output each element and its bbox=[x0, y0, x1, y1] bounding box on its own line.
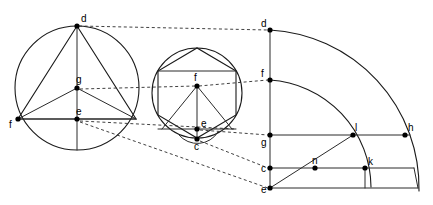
right-point-n bbox=[312, 165, 317, 170]
right-label-l: l bbox=[355, 122, 357, 133]
left-label-g: g bbox=[76, 74, 82, 85]
right-label-f: f bbox=[261, 68, 264, 79]
right-point-g bbox=[267, 132, 272, 137]
connector-middle-f-to-right-f bbox=[199, 80, 268, 86]
middle-spoke-f-left bbox=[162, 86, 197, 129]
middle-label-c: c bbox=[194, 141, 199, 152]
middle-label-f: f bbox=[194, 72, 197, 83]
left-circle-panel: d g e f bbox=[9, 13, 139, 150]
right-point-c bbox=[267, 165, 272, 170]
right-point-k bbox=[362, 165, 367, 170]
left-point-d bbox=[74, 23, 79, 28]
connector-d-to-d bbox=[79, 26, 268, 30]
right-label-g: g bbox=[261, 137, 267, 148]
connector-middle-c-to-right-c bbox=[200, 141, 268, 168]
right-point-e bbox=[267, 185, 272, 190]
right-label-n: n bbox=[312, 155, 318, 166]
inner-arc bbox=[270, 80, 371, 187]
geometric-construction-figure: d g e f f e c bbox=[0, 0, 433, 205]
connector-left-e-to-middle-chord bbox=[80, 121, 236, 129]
right-label-d: d bbox=[261, 18, 267, 29]
left-spoke-g-r bbox=[77, 88, 136, 119]
right-point-d bbox=[267, 27, 272, 32]
left-point-f bbox=[15, 116, 20, 121]
diagram-canvas: d g e f f e c bbox=[0, 0, 433, 205]
left-label-e: e bbox=[76, 106, 82, 117]
right-point-l bbox=[350, 132, 355, 137]
right-point-f bbox=[267, 77, 272, 82]
middle-point-f bbox=[194, 83, 199, 88]
right-quadrant-panel: d f g c e l h k n bbox=[261, 18, 419, 195]
left-point-e bbox=[74, 116, 79, 121]
right-closing-edge bbox=[414, 168, 418, 188]
left-label-d: d bbox=[81, 13, 87, 24]
right-label-h: h bbox=[408, 122, 414, 133]
left-point-g bbox=[74, 85, 79, 90]
left-label-f: f bbox=[9, 119, 12, 130]
connector-left-g-to-middle-f bbox=[80, 86, 196, 89]
right-label-k: k bbox=[368, 156, 374, 167]
right-point-h bbox=[402, 132, 407, 137]
middle-circle-panel: f e c bbox=[152, 48, 242, 152]
right-label-c: c bbox=[261, 163, 266, 174]
outer-arc bbox=[270, 30, 419, 191]
left-spoke-g-f bbox=[18, 88, 77, 119]
